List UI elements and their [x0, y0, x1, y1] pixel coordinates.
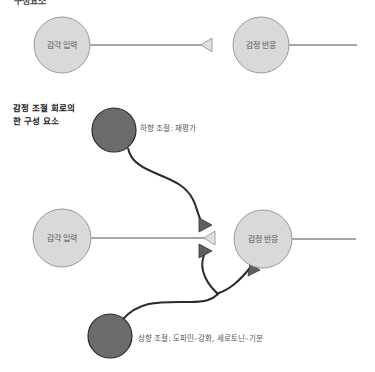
output-node-label: 감정 반응: [248, 234, 279, 244]
bottom-diagram: 감각 입력 감정 반응 하향 조절: 재평가 상향 조절: 도파민–강화, 세로…: [33, 108, 356, 358]
top-down-label: 하향 조절: 재평가: [140, 123, 196, 133]
bottom-up-modulator-node: [88, 314, 132, 358]
input-node-label: 감각 입력: [47, 233, 78, 243]
bottom-up-label: 상향 조절: 도파민–강화, 세로토닌–기분: [138, 333, 263, 343]
diagram-title-line1: 감정 조절 회로의: [13, 103, 75, 113]
synapse-triangle-icon: [204, 231, 215, 245]
bottom-up-pathway-to-output: [216, 268, 250, 294]
top-down-synapse-icon: [199, 218, 212, 232]
bottom-up-synapse-input-icon: [199, 244, 212, 258]
input-node-label: 감각 입력: [47, 40, 78, 50]
top-diagram: 감각 입력 감정 반응: [34, 17, 357, 73]
synapse-triangle-icon: [201, 38, 212, 52]
bottom-up-pathway-to-input: [122, 255, 218, 320]
top-down-pathway: [128, 148, 202, 222]
diagram-canvas: 감각 입력 감정 반응 감정 조절 회로의 한 구성 요소 감각 입력 감정 반…: [0, 0, 375, 372]
top-down-modulator-node: [92, 108, 136, 152]
output-node-label: 감정 반응: [246, 40, 277, 50]
diagram-title-line2: 한 구성 요소: [13, 116, 59, 126]
